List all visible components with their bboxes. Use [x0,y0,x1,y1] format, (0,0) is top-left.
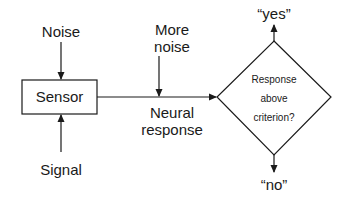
no-label: “no” [244,177,304,192]
noise-label: Noise [36,24,86,39]
decision-label-line1: Response [234,75,314,85]
yes-label: “yes” [244,6,304,21]
sensor-label: Sensor [22,89,97,104]
neural-response-label-line1: Neural [132,105,212,120]
decision-label-line3: criterion? [234,113,314,123]
more-noise-label-line1: More [142,22,202,37]
neural-response-label-line2: response [132,122,212,137]
decision-label-line2: above [234,94,314,104]
signal-label: Signal [31,162,91,177]
more-noise-label-line2: noise [142,39,202,54]
